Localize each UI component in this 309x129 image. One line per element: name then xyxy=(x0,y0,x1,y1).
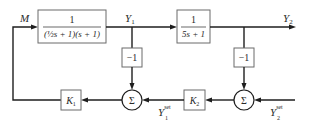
sum2-symbol: Σ xyxy=(241,95,247,106)
summing-junction-1: Σ xyxy=(122,90,142,110)
input-m-label: M xyxy=(19,12,30,24)
g2-numerator: 1 xyxy=(191,14,196,25)
neg1-label: −1 xyxy=(127,52,138,63)
arrowhead-into-g2 xyxy=(170,25,177,30)
arrowhead-into-k1 xyxy=(81,98,88,103)
block-diagram: M 1 (½s + 1)(s + 1) Y1 −1 Σ K1 xyxy=(0,0,309,129)
g1-denominator: (½s + 1)(s + 1) xyxy=(44,29,100,39)
y1-set-sub: 1 xyxy=(165,115,168,121)
block-neg1: −1 xyxy=(122,48,142,67)
y2-set-sub: 2 xyxy=(277,115,280,121)
y2-label: Y2 xyxy=(283,12,293,26)
g2-denominator: 5s + 1 xyxy=(182,29,205,39)
y1-label-sub: 1 xyxy=(131,18,135,26)
arrowhead-into-sum2-top xyxy=(242,83,247,90)
arrowhead-into-sum1-right xyxy=(142,98,149,103)
neg2-label: −1 xyxy=(239,52,250,63)
arrowhead-into-sum1-top xyxy=(130,83,135,90)
arrowhead-into-sum2-right xyxy=(254,98,261,103)
arrowhead-into-k2 xyxy=(205,98,212,103)
g1-numerator: 1 xyxy=(70,14,75,25)
block-k1: K1 xyxy=(61,90,81,110)
summing-junction-2: Σ xyxy=(234,90,254,110)
y1-label: Y1 xyxy=(125,12,135,26)
block-k2: K2 xyxy=(184,90,205,110)
arrowhead-into-g1 xyxy=(31,25,38,30)
block-g2: 1 5s + 1 xyxy=(177,10,210,43)
sum1-symbol: Σ xyxy=(129,95,135,106)
block-g1: 1 (½s + 1)(s + 1) xyxy=(38,10,106,43)
block-neg2: −1 xyxy=(234,48,254,67)
